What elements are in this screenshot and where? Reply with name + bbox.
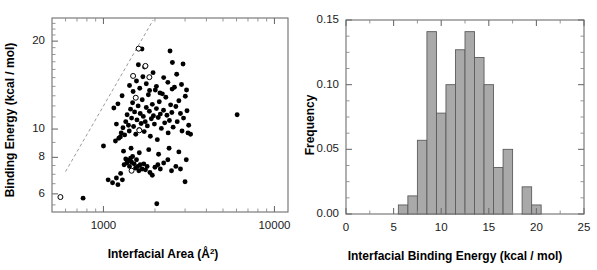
scatter-point-open bbox=[147, 75, 152, 80]
histogram-x-tick-label: 5 bbox=[390, 221, 396, 233]
scatter-point bbox=[170, 60, 175, 65]
scatter-point bbox=[120, 177, 125, 182]
scatter-point bbox=[176, 98, 181, 103]
scatter-point bbox=[176, 149, 181, 154]
scatter-point bbox=[145, 123, 150, 128]
scatter-point bbox=[154, 201, 159, 206]
histogram-x-tick-label: 0 bbox=[343, 221, 349, 233]
scatter-point-open bbox=[133, 95, 138, 100]
scatter-plot-frame bbox=[52, 18, 288, 212]
scatter-point bbox=[151, 70, 156, 75]
scatter-point bbox=[140, 97, 145, 102]
scatter-point bbox=[158, 90, 163, 95]
scatter-x-tick-label: 1000 bbox=[91, 219, 117, 231]
scatter-point bbox=[125, 112, 130, 117]
scatter-point bbox=[167, 146, 172, 151]
scatter-point bbox=[184, 157, 189, 162]
scatter-point bbox=[164, 113, 169, 118]
scatter-x-axis-title: Interfacial Area (Å2) bbox=[108, 246, 219, 261]
scatter-point bbox=[145, 164, 150, 169]
scatter-point bbox=[181, 62, 186, 67]
scatter-point bbox=[121, 125, 126, 130]
scatter-point bbox=[161, 75, 166, 80]
histogram-panel: 05101520250.000.050.100.15 Interfacial B… bbox=[300, 0, 597, 270]
scatter-point bbox=[174, 72, 179, 77]
scatter-point bbox=[163, 95, 168, 100]
scatter-point bbox=[127, 83, 132, 88]
scatter-point bbox=[154, 106, 159, 111]
scatter-point bbox=[150, 173, 155, 178]
scatter-point bbox=[169, 168, 174, 173]
scatter-point bbox=[169, 110, 174, 115]
scatter-point bbox=[137, 86, 142, 91]
histogram-bar bbox=[503, 149, 513, 214]
scatter-point bbox=[167, 118, 172, 123]
scatter-point bbox=[118, 134, 123, 139]
scatter-point bbox=[115, 101, 120, 106]
histogram-bar bbox=[408, 196, 418, 214]
scatter-point bbox=[147, 88, 152, 93]
scatter-point bbox=[162, 120, 167, 125]
scatter-point bbox=[81, 196, 86, 201]
scatter-x-tick-label: 10000 bbox=[258, 219, 290, 231]
histogram-y-tick-label: 0.00 bbox=[317, 207, 339, 219]
scatter-points-open bbox=[58, 46, 152, 199]
scatter-point bbox=[148, 134, 153, 139]
scatter-point bbox=[158, 112, 163, 117]
scatter-point bbox=[161, 108, 166, 113]
scatter-point bbox=[143, 119, 148, 124]
scatter-point bbox=[147, 109, 152, 114]
scatter-point bbox=[130, 154, 135, 159]
histogram-bar bbox=[522, 187, 532, 214]
scatter-point bbox=[114, 176, 119, 181]
scatter-point bbox=[129, 146, 134, 151]
scatter-point-open bbox=[143, 63, 148, 68]
histogram-bar bbox=[417, 140, 427, 214]
histogram-x-tick-label: 10 bbox=[435, 221, 448, 233]
scatter-point bbox=[183, 179, 188, 184]
scatter-point bbox=[115, 182, 120, 187]
scatter-point bbox=[186, 123, 191, 128]
scatter-point bbox=[165, 157, 170, 162]
scatter-point bbox=[120, 93, 125, 98]
scatter-point bbox=[134, 79, 139, 84]
scatter-point bbox=[101, 144, 106, 149]
scatter-y-tick-label: 20 bbox=[32, 34, 45, 46]
scatter-point bbox=[178, 167, 183, 172]
scatter-point bbox=[178, 111, 183, 116]
scatter-point bbox=[113, 139, 118, 144]
scatter-y-tick-label: 6 bbox=[39, 187, 45, 199]
scatter-point bbox=[142, 129, 147, 134]
scatter-point bbox=[168, 49, 173, 54]
scatter-point bbox=[128, 107, 133, 112]
scatter-point-open bbox=[137, 128, 142, 133]
histogram-bar bbox=[446, 85, 456, 214]
figure-container: 100010000681020 Interfacial Area (Å2) Bi… bbox=[0, 0, 597, 270]
scatter-points-filled bbox=[81, 47, 240, 207]
scatter-point bbox=[170, 87, 175, 92]
scatter-point bbox=[173, 164, 178, 169]
histogram-bar bbox=[494, 167, 504, 214]
scatter-point bbox=[158, 167, 163, 172]
scatter-point bbox=[136, 103, 141, 108]
upper-bound-trendline bbox=[66, 20, 154, 171]
scatter-point bbox=[127, 129, 132, 134]
histogram-x-tick-label: 15 bbox=[482, 221, 495, 233]
scatter-point bbox=[186, 130, 191, 135]
scatter-point bbox=[175, 119, 180, 124]
scatter-point bbox=[181, 116, 186, 121]
scatter-point bbox=[135, 117, 140, 122]
scatter-point bbox=[165, 80, 170, 85]
scatter-point bbox=[146, 147, 151, 152]
scatter-point bbox=[132, 109, 137, 114]
histogram-bar bbox=[427, 32, 437, 214]
scatter-point bbox=[137, 150, 142, 155]
scatter-point bbox=[235, 112, 240, 117]
scatter-point bbox=[155, 162, 160, 167]
histogram-svg: 05101520250.000.050.100.15 Interfacial B… bbox=[300, 0, 597, 270]
scatter-point bbox=[152, 122, 157, 127]
histogram-y-tick-label: 0.05 bbox=[317, 142, 339, 154]
scatter-point bbox=[114, 122, 119, 127]
scatter-point bbox=[154, 84, 159, 89]
scatter-point bbox=[130, 100, 135, 105]
